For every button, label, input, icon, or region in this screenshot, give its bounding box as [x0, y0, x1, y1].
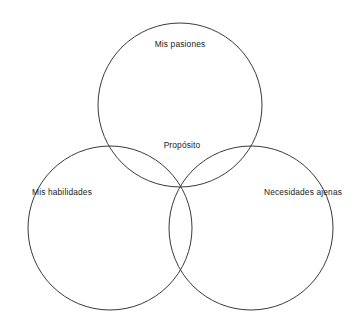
label-mis-pasiones: Mis pasiones — [155, 39, 206, 49]
label-necesidades-ajenas: Necesidades ajenas — [264, 187, 342, 197]
venn-diagram-canvas: Mis pasiones Mis habilidades Necesidades… — [0, 0, 361, 330]
diagram-background — [0, 0, 361, 330]
venn-diagram: Mis pasiones Mis habilidades Necesidades… — [0, 0, 361, 330]
label-mis-habilidades: Mis habilidades — [32, 187, 92, 197]
label-proposito: Propósito — [164, 140, 201, 150]
